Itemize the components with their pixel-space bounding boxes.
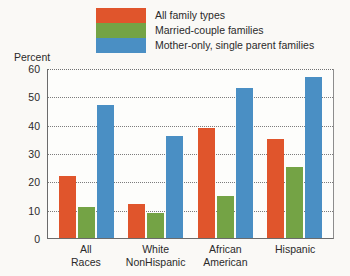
y-axis-tick-30: 30 (28, 148, 40, 160)
chart-page: All family types Married-couple families… (0, 0, 350, 276)
bar-married-couple-families-1[interactable] (147, 213, 164, 239)
legend-label-column: All family types Married-couple families… (155, 8, 314, 53)
bar-married-couple-families-0[interactable] (78, 207, 95, 238)
bar-group-african-american (191, 69, 260, 238)
x-axis-tick-1-line2: NonHispanic (121, 256, 191, 269)
x-axis-tick-1: WhiteNonHispanic (121, 243, 191, 268)
bar-all-family-types-2[interactable] (198, 128, 215, 239)
y-axis-tick-10: 10 (28, 205, 40, 217)
legend-label-married-couple-families: Married-couple families (155, 23, 314, 38)
y-axis-tick-60: 60 (28, 63, 40, 75)
legend-swatch-column (96, 8, 146, 53)
x-axis-tick-0-line1: All (51, 243, 121, 256)
bar-mother-only-single-parent-families-1[interactable] (166, 136, 183, 238)
bar-mother-only-single-parent-families-0[interactable] (97, 105, 114, 238)
chart-legend: All family types Married-couple families… (96, 8, 314, 53)
x-axis-tick-0-line2: Races (51, 256, 121, 269)
y-axis-tick-0: 0 (34, 233, 40, 245)
y-axis-tick-40: 40 (28, 120, 40, 132)
legend-label-all-family-types: All family types (155, 8, 314, 23)
y-axis-title: Percent (14, 51, 50, 63)
x-axis-tick-3-line1: Hispanic (260, 243, 330, 256)
bar-all-family-types-0[interactable] (59, 176, 76, 238)
bar-group-white-nonhispanic (121, 69, 190, 238)
legend-label-mother-only-families: Mother-only, single parent families (155, 38, 314, 53)
x-axis-tick-2-line1: African (191, 243, 261, 256)
y-axis-tick-20: 20 (28, 176, 40, 188)
plot-area (47, 69, 334, 239)
bar-mother-only-single-parent-families-2[interactable] (236, 88, 253, 238)
bar-married-couple-families-3[interactable] (286, 167, 303, 238)
y-axis-tick-labels: 6050403020100 (0, 69, 45, 239)
legend-swatch-married-couple-families (96, 23, 146, 38)
legend-swatch-all-family-types (96, 8, 146, 23)
bar-all-family-types-3[interactable] (267, 139, 284, 238)
bar-group-hispanic (260, 69, 329, 238)
x-axis-tick-3: Hispanic (260, 243, 330, 268)
y-axis-tick-50: 50 (28, 91, 40, 103)
bar-all-family-types-1[interactable] (128, 204, 145, 238)
x-axis-tick-0: AllRaces (51, 243, 121, 268)
bar-married-couple-families-2[interactable] (217, 196, 234, 239)
x-axis-tick-2-line2: American (191, 256, 261, 269)
bar-groups (48, 69, 333, 238)
bar-mother-only-single-parent-families-3[interactable] (305, 77, 322, 239)
x-axis-tick-2: AfricanAmerican (191, 243, 261, 268)
legend-swatch-mother-only-families (96, 38, 146, 53)
x-axis-tick-1-line1: White (121, 243, 191, 256)
x-axis-tick-labels: AllRacesWhiteNonHispanicAfricanAmericanH… (47, 243, 334, 268)
bar-group-all-races (52, 69, 121, 238)
